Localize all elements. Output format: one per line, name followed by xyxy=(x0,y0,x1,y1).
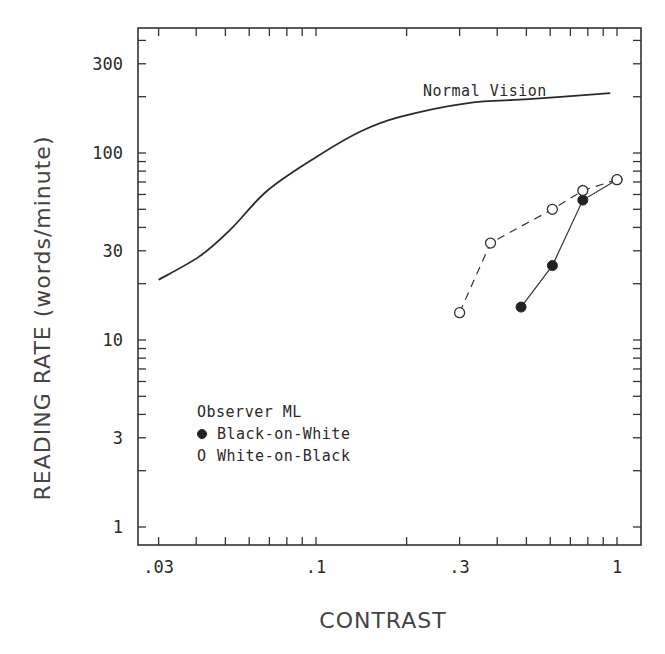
y-tick-label: 300 xyxy=(92,54,123,74)
chart: .03.1.31131030100300 Normal Vision Obser… xyxy=(0,0,665,654)
x-tick-label: .03 xyxy=(143,557,174,577)
legend-title: Observer ML xyxy=(197,403,302,421)
normal-vision-annotation: Normal Vision xyxy=(423,82,547,100)
plot-frame xyxy=(138,28,641,545)
x-tick-label: .1 xyxy=(306,557,326,577)
x-tick-label: .3 xyxy=(449,557,469,577)
open-circle-marker xyxy=(612,175,622,185)
legend: Observer ML Black-on-White O White-on-Bl… xyxy=(197,403,350,465)
y-tick-label: 30 xyxy=(103,241,123,261)
filled-circle-marker xyxy=(547,261,557,271)
chart-svg: .03.1.31131030100300 Normal Vision Obser… xyxy=(0,0,665,654)
y-axis-title: READING RATE (words/minute) xyxy=(30,136,55,501)
axis-ticks xyxy=(138,28,641,545)
filled-circle-marker xyxy=(516,302,526,312)
y-tick-label: 100 xyxy=(92,143,123,163)
open-circle-marker xyxy=(486,238,496,248)
legend-filled-circle-icon xyxy=(198,430,207,439)
open-circle-marker xyxy=(455,308,465,318)
x-tick-label: 1 xyxy=(612,557,622,577)
legend-open-circle-icon: O xyxy=(197,447,207,465)
y-tick-label: 3 xyxy=(113,428,123,448)
y-tick-label: 1 xyxy=(113,517,123,537)
black-on-white-line xyxy=(521,180,617,307)
series-layer xyxy=(159,93,622,318)
normal-vision-curve xyxy=(159,93,611,280)
y-tick-label: 10 xyxy=(103,330,123,350)
legend-label-black-on-white: Black-on-White xyxy=(217,425,350,443)
filled-circle-marker xyxy=(578,195,588,205)
open-circle-marker xyxy=(547,204,557,214)
open-circle-marker xyxy=(578,186,588,196)
white-on-black-line xyxy=(460,180,617,313)
x-axis-title: CONTRAST xyxy=(319,608,446,633)
legend-label-white-on-black: White-on-Black xyxy=(217,447,350,465)
